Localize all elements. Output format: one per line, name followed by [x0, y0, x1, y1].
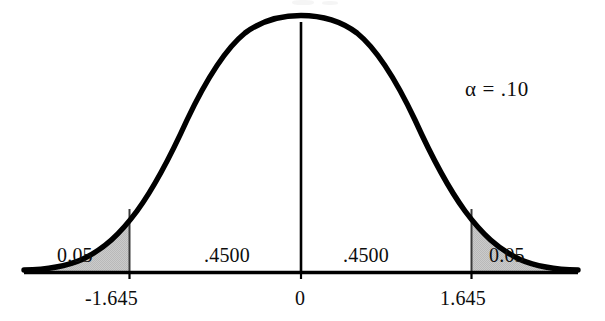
alpha-annotation-label: α = .10 — [465, 79, 529, 100]
right-center-area-label: .4500 — [343, 245, 389, 265]
normal-distribution-figure: 0.05 .4500 .4500 0.05 -1.645 0 1.645 α =… — [0, 0, 605, 321]
left-center-area-label: .4500 — [204, 245, 250, 265]
right-tail-area-label: 0.05 — [489, 245, 525, 265]
distribution-plot — [0, 0, 605, 321]
left-tail-area-label: 0.05 — [57, 245, 93, 265]
x-tick-label-right: 1.645 — [440, 288, 486, 308]
x-tick-label-center: 0 — [295, 288, 305, 308]
x-tick-label-left: -1.645 — [85, 288, 138, 308]
